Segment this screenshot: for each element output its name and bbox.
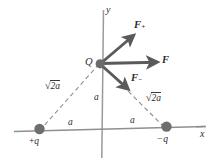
charge-positive-dot <box>34 124 44 134</box>
force-resultant-symbol: F <box>162 54 169 65</box>
vertical-distance-label: a <box>94 93 99 103</box>
force-resultant-arrow <box>100 62 157 63</box>
y-axis-label: y <box>106 5 110 15</box>
force-minus-subscript: − <box>138 76 142 83</box>
force-plus-subscript: + <box>141 23 145 30</box>
axes-group <box>14 10 205 158</box>
x-axis-label: x <box>200 129 204 139</box>
force-vectors-group <box>100 36 157 90</box>
positive-charge-label: +q <box>29 137 39 147</box>
charge-Q-label: Q <box>85 57 93 68</box>
right-radicand: 2a <box>151 92 162 103</box>
physics-force-diagram: y x Q F+ F F− √2a √2a a a a +q −q <box>0 0 215 162</box>
force-plus-symbol: F <box>134 19 141 30</box>
right-horizontal-distance-label: a <box>130 116 135 126</box>
negative-charge-label: −q <box>157 135 168 145</box>
force-minus-arrow <box>100 64 128 89</box>
right-diagonal-length-label: √2a <box>146 92 161 103</box>
force-plus-arrow <box>100 36 134 65</box>
negative-charge-symbol: q <box>162 134 168 144</box>
left-radicand: 2a <box>50 80 61 91</box>
left-horizontal-distance-label: a <box>68 118 73 128</box>
force-plus-label: F+ <box>134 20 145 31</box>
charge-Q-dot <box>96 59 105 68</box>
force-minus-label: F− <box>131 73 142 84</box>
charge-negative-dot <box>161 121 171 131</box>
force-minus-symbol: F <box>131 72 138 83</box>
y-axis <box>102 10 104 158</box>
positive-charge-symbol: q <box>34 136 39 146</box>
force-resultant-label: F <box>162 55 169 66</box>
left-diagonal-length-label: √2a <box>45 80 60 91</box>
